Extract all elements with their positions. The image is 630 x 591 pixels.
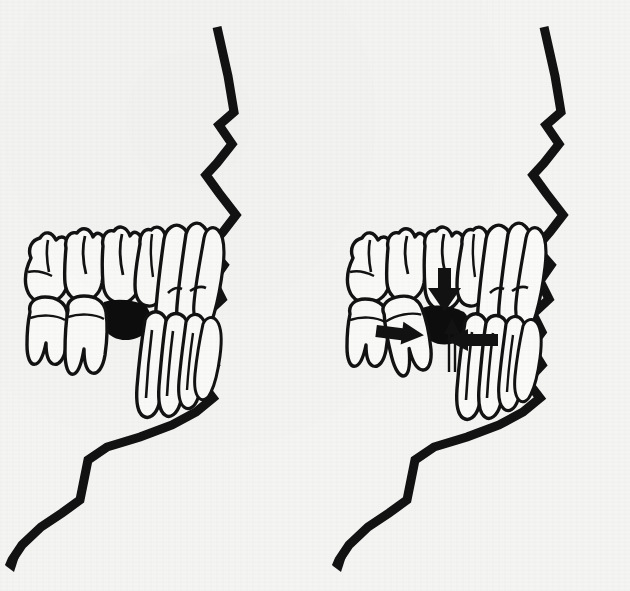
tooth-lower-molar-1-left bbox=[27, 297, 68, 364]
panel-right bbox=[333, 27, 563, 572]
panel-left bbox=[6, 27, 236, 572]
dental-illustration-svg bbox=[0, 0, 630, 591]
tooth-lower-molar-2-left bbox=[65, 296, 107, 374]
figure-root: Drifting and tipping of teeth following … bbox=[0, 0, 630, 591]
